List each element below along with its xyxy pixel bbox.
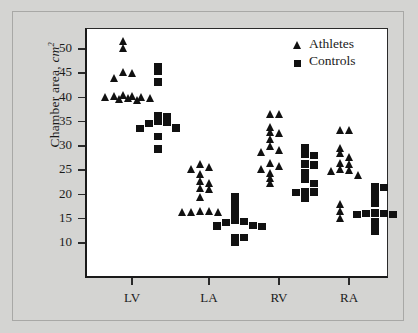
data-point-athletes-rv: [266, 159, 274, 167]
data-point-controls-lv: [154, 78, 161, 85]
data-point-athletes-la: [187, 165, 195, 173]
data-point-athletes-rv: [275, 146, 283, 154]
data-point-controls-lv: [154, 133, 161, 140]
data-point-athletes-la: [196, 207, 204, 215]
data-point-athletes-la: [205, 185, 213, 193]
data-point-controls-lv: [163, 119, 170, 126]
x-axis-tick-mark: [131, 278, 133, 285]
data-point-controls-la: [240, 218, 247, 225]
data-point-controls-lv: [145, 120, 152, 127]
data-point-controls-la: [231, 239, 238, 246]
data-point-controls-rv: [292, 189, 299, 196]
data-point-controls-la: [249, 222, 256, 229]
data-point-controls-lv: [172, 124, 179, 131]
data-point-athletes-rv: [266, 179, 274, 187]
data-point-athletes-la: [205, 207, 213, 215]
y-axis-tick: 25: [0, 169, 85, 170]
data-point-athletes-lv: [119, 44, 127, 52]
x-axis-tick-mark: [348, 278, 350, 285]
data-point-athletes-la: [187, 208, 195, 216]
y-axis-unit-exponent: 2: [45, 42, 55, 46]
data-point-athletes-ra: [354, 171, 362, 179]
x-axis-tick-mark: [208, 278, 210, 285]
data-point-athletes-lv: [119, 68, 127, 76]
x-axis-tick-label: RV: [254, 290, 304, 306]
y-axis-tick-mark: [78, 218, 85, 220]
x-axis-tick-label: RA: [324, 290, 374, 306]
data-point-athletes-rv: [275, 129, 283, 137]
data-point-controls-la: [231, 217, 238, 224]
data-point-controls-rv: [310, 152, 317, 159]
data-point-controls-ra: [380, 210, 387, 217]
y-axis-tick-label: 30: [59, 136, 72, 154]
data-point-athletes-ra: [345, 166, 353, 174]
data-point-controls-la: [231, 199, 238, 206]
data-point-controls-lv: [154, 68, 161, 75]
y-axis-tick-label: 10: [59, 233, 72, 251]
data-point-athletes-rv: [275, 110, 283, 118]
y-axis-tick-mark: [78, 242, 85, 244]
data-point-controls-rv: [301, 160, 308, 167]
y-axis-tick-mark: [78, 97, 85, 99]
y-axis-tick-label: 35: [59, 112, 72, 130]
data-point-athletes-rv: [275, 162, 283, 170]
legend-item-label: Controls: [309, 53, 356, 69]
data-point-athletes-lv: [124, 94, 132, 102]
data-point-controls-la: [213, 222, 220, 229]
data-point-controls-ra: [371, 200, 378, 207]
x-axis-tick-label: LA: [184, 290, 234, 306]
data-point-athletes-ra: [336, 165, 344, 173]
data-point-controls-ra: [353, 211, 360, 218]
y-axis-tick: 20: [0, 194, 85, 195]
data-point-athletes-ra: [336, 126, 344, 134]
data-point-athletes-la: [205, 163, 213, 171]
data-point-athletes-lv: [128, 69, 136, 77]
data-point-athletes-la: [196, 184, 204, 192]
data-point-athletes-ra: [336, 149, 344, 157]
data-point-controls-la: [240, 234, 247, 241]
data-point-athletes-la: [178, 208, 186, 216]
data-point-controls-lv: [154, 145, 161, 152]
data-point-athletes-lv: [146, 94, 154, 102]
y-axis-tick-label: 50: [59, 39, 72, 57]
square-marker-icon: [293, 57, 304, 68]
data-point-controls-lv: [136, 125, 143, 132]
data-point-controls-rv: [310, 180, 317, 187]
data-point-controls-ra: [371, 209, 378, 216]
y-axis-tick-label: 15: [59, 209, 72, 227]
legend-item-label: Athletes: [309, 36, 354, 52]
y-axis-tick: 30: [0, 145, 85, 146]
y-axis-tick-label: 45: [59, 63, 72, 81]
data-point-controls-ra: [371, 228, 378, 235]
y-axis-tick: 10: [0, 242, 85, 243]
data-point-athletes-rv: [266, 142, 274, 150]
data-point-controls-rv: [310, 161, 317, 168]
legend-symbol-glyph: [293, 41, 301, 49]
data-point-athletes-lv: [110, 74, 118, 82]
data-point-controls-rv: [310, 188, 317, 195]
data-point-athletes-lv: [133, 96, 141, 104]
data-point-athletes-la: [196, 193, 204, 201]
figure-container: Chamber area, cm2 101520253035404550 LVL…: [0, 0, 418, 333]
data-point-athletes-rv: [266, 110, 274, 118]
y-axis-tick: 40: [0, 97, 85, 98]
y-axis-tick: 35: [0, 121, 85, 122]
data-point-controls-rv: [301, 151, 308, 158]
y-axis-tick-mark: [78, 48, 85, 50]
data-point-athletes-rv: [257, 148, 265, 156]
data-point-athletes-la: [214, 208, 222, 216]
data-point-athletes-lv: [101, 93, 109, 101]
y-axis-tick-mark: [78, 169, 85, 171]
data-point-controls-ra: [380, 184, 387, 191]
data-point-athletes-lv: [115, 95, 123, 103]
data-point-controls-lv: [154, 118, 161, 125]
y-axis-tick-mark: [78, 194, 85, 196]
data-point-athletes-ra: [345, 126, 353, 134]
data-point-athletes-ra: [336, 214, 344, 222]
data-point-controls-la: [258, 223, 265, 230]
data-point-controls-la: [222, 219, 229, 226]
y-axis-tick-mark: [78, 145, 85, 147]
y-axis-tick-label: 40: [59, 88, 72, 106]
data-point-controls-ra: [362, 210, 369, 217]
data-point-athletes-ra: [327, 167, 335, 175]
